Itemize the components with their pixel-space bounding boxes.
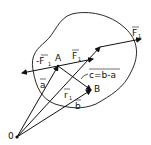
f1-subscript: 1 [78,56,81,62]
point-a [57,65,59,67]
vector-a-label: a [40,80,46,90]
point-b-label: B [94,84,100,94]
vector-c-label: c=b-a [89,70,116,80]
f1-right-subscript: 1 [138,33,141,39]
point-a-label: A [55,53,62,63]
neg-f1-vector [22,66,58,73]
vector-a [17,66,58,137]
origin-label: 0 [8,131,14,141]
point-origin [15,135,18,138]
vector-c [58,66,91,90]
neg-f1-label: -F [36,56,44,66]
f1-label: F [72,51,77,61]
vector-r1-subscript: 1 [69,95,72,101]
c-label-pointer [81,74,88,79]
force-diagram: 0 A B a b r 1 c=b-a -F 1 F 1 F 1 [0,0,151,145]
f1-right-label: F [132,28,137,38]
neg-f1-subscript: 1 [48,61,51,67]
vector-r1-label: r [64,90,68,100]
vector-b-label: b [75,101,81,111]
